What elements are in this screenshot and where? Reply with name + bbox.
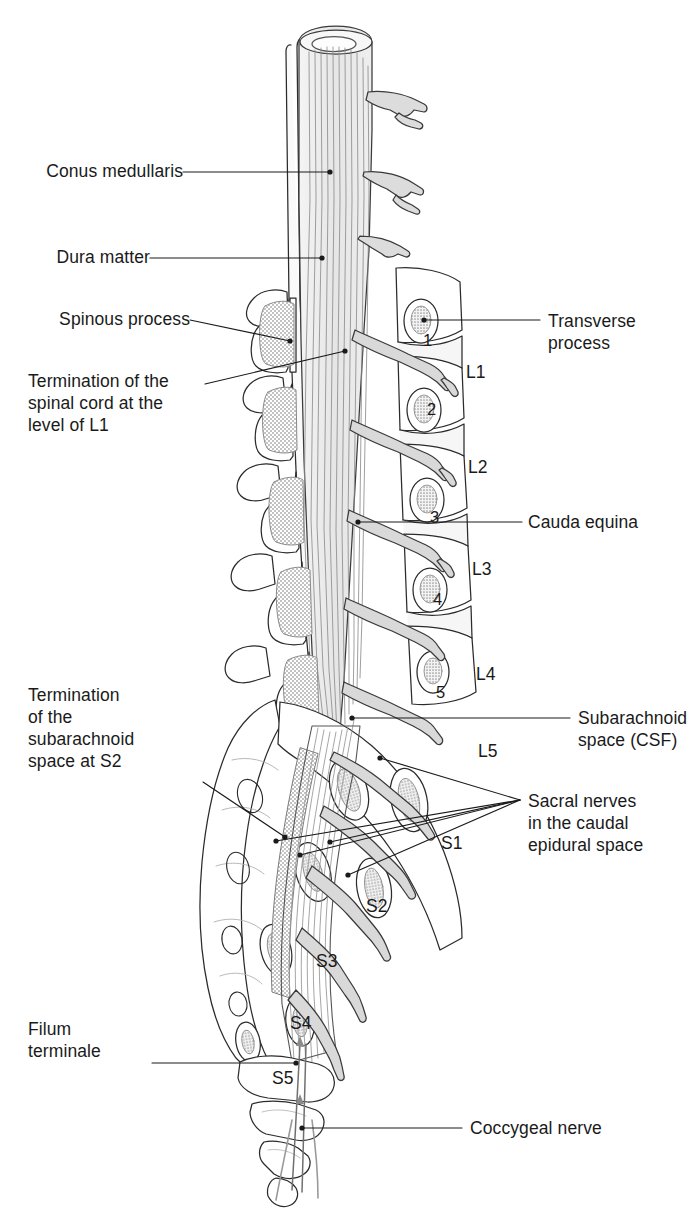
label-line: space (CSF): [578, 729, 678, 751]
label-spinous-process: Spinous process: [28, 308, 190, 330]
label-line: level of L1: [28, 414, 208, 436]
label-line: Subarachnoid: [578, 707, 678, 729]
label-filum-terminale: Filum terminale: [28, 1018, 152, 1062]
level-label-s3: S3: [316, 951, 337, 972]
label-transverse-process: Transverse process: [548, 310, 663, 354]
label-line: terminale: [28, 1040, 152, 1062]
label-line: space at S2: [28, 750, 208, 772]
label-line: epidural space: [528, 834, 668, 856]
label-line: Filum: [28, 1018, 152, 1040]
label-line: subarachnoid: [28, 728, 208, 750]
label-sacral-nerves: Sacral nerves in the caudal epidural spa…: [528, 790, 668, 856]
label-coccygeal-nerve: Coccygeal nerve: [470, 1117, 660, 1139]
label-line: in the caudal: [528, 812, 668, 834]
level-label-s2: S2: [366, 896, 387, 917]
root-number-1: 1: [423, 331, 432, 350]
root-number-3: 3: [430, 508, 439, 527]
root-number-2: 2: [427, 400, 436, 419]
level-label-l3: L3: [472, 559, 491, 580]
level-label-s5: S5: [272, 1068, 293, 1089]
label-line: Termination of the: [28, 370, 208, 392]
level-label-l5: L5: [478, 741, 497, 762]
label-line: spinal cord at the: [28, 392, 208, 414]
label-subarachnoid-space: Subarachnoid space (CSF): [578, 707, 678, 751]
level-label-s1: S1: [441, 833, 462, 854]
label-termination-spinal-cord: Termination of the spinal cord at the le…: [28, 370, 208, 436]
root-number-5: 5: [436, 683, 445, 702]
level-label-s4: S4: [290, 1013, 311, 1034]
level-label-l1: L1: [466, 362, 485, 383]
label-line: process: [548, 332, 663, 354]
label-line: of the: [28, 706, 208, 728]
level-label-l4: L4: [476, 664, 495, 685]
label-conus-medullaris: Conus medullaris: [28, 160, 183, 182]
root-number-4: 4: [433, 590, 442, 609]
label-cauda-equina: Cauda equina: [528, 511, 668, 533]
label-line: Transverse: [548, 310, 663, 332]
level-label-l2: L2: [468, 457, 487, 478]
label-line: Sacral nerves: [528, 790, 668, 812]
label-line: Termination: [28, 684, 208, 706]
label-dura-matter: Dura matter: [28, 246, 150, 268]
label-termination-subarachnoid: Termination of the subarachnoid space at…: [28, 684, 208, 772]
